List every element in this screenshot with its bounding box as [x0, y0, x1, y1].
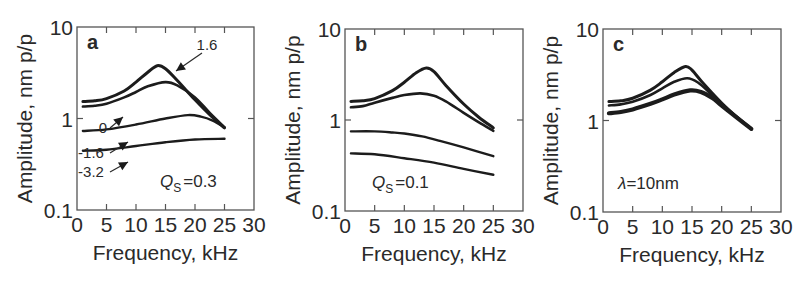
parameter-symbol: λ	[617, 174, 626, 193]
panel-b: 0510152025300.1110Frequency, kHzAmplitud…	[281, 18, 535, 265]
annotation-label: 0	[99, 119, 107, 136]
parameter-subscript: S	[173, 181, 181, 195]
series-line-curve-3	[351, 131, 493, 156]
y-tick-label: 1	[61, 108, 73, 131]
series-line-curve-4	[351, 153, 493, 174]
y-tick-label: 1	[587, 110, 599, 133]
panel-letter: c	[613, 33, 624, 55]
y-tick-label: 10	[576, 18, 599, 41]
x-tick-label: 10	[651, 215, 674, 238]
x-tick-label: 10	[393, 214, 416, 237]
x-axis-title: Frequency, kHz	[93, 241, 239, 264]
x-tick-label: 20	[710, 215, 733, 238]
x-axis-title: Frequency, kHz	[619, 243, 765, 266]
x-tick-label: 20	[183, 213, 206, 236]
parameter-label: QS=0.3	[160, 172, 217, 195]
y-axis-title: Amplitude, nm p/p	[13, 34, 36, 203]
series-line-curve-2	[609, 78, 751, 129]
y-axis-title: Amplitude, nm p/p	[539, 36, 562, 205]
series-line-curve-1	[609, 66, 751, 129]
annotation-label: -1.6	[78, 144, 104, 161]
y-tick-label: 10	[318, 18, 341, 41]
x-tick-label: 25	[482, 214, 505, 237]
parameter-symbol: Q	[160, 172, 173, 191]
parameter-value: =10nm	[626, 174, 678, 193]
x-tick-label: 25	[740, 215, 763, 238]
y-tick-label: 0.1	[44, 199, 73, 222]
y-tick-label: 0.1	[312, 200, 341, 223]
x-tick-label: 10	[124, 213, 147, 236]
x-tick-label: 5	[627, 215, 639, 238]
parameter-symbol: Q	[372, 173, 385, 192]
parameter-value: =0.1	[395, 173, 429, 192]
x-tick-label: 20	[452, 214, 475, 237]
parameter-subscript: S	[385, 182, 393, 196]
x-tick-label: 15	[422, 214, 445, 237]
x-tick-label: 15	[154, 213, 177, 236]
figure: 0510152025300.1110Frequency, kHzAmplitud…	[0, 0, 800, 285]
x-tick-label: 15	[680, 215, 703, 238]
series-line--3.2	[83, 139, 225, 151]
panel-letter: a	[87, 31, 99, 53]
y-tick-label: 0.1	[570, 201, 599, 224]
arrow-head-icon	[176, 62, 186, 71]
annotation-label: -3.2	[78, 163, 104, 180]
panel-c: 0510152025300.1110Frequency, kHzAmplitud…	[539, 18, 793, 266]
x-tick-label: 25	[213, 213, 236, 236]
parameter-label: λ=10nm	[617, 174, 679, 193]
parameter-label: QS=0.1	[372, 173, 429, 196]
x-tick-label: 30	[511, 214, 534, 237]
parameter-value: =0.3	[183, 172, 217, 191]
y-tick-label: 1	[329, 109, 341, 132]
x-tick-label: 30	[242, 213, 265, 236]
arrow-head-icon	[113, 117, 123, 126]
x-tick-label: 30	[769, 215, 792, 238]
x-tick-label: 5	[101, 213, 113, 236]
annotation-label: 1.6	[197, 36, 218, 53]
y-tick-label: 10	[50, 16, 73, 39]
y-axis-title: Amplitude, nm p/p	[281, 35, 304, 204]
x-axis-title: Frequency, kHz	[361, 242, 507, 265]
panel-a: 0510152025300.1110Frequency, kHzAmplitud…	[13, 16, 266, 264]
panel-letter: b	[355, 33, 367, 55]
x-tick-label: 5	[369, 214, 381, 237]
